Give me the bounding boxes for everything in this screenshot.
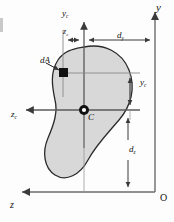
area-element-dA <box>59 68 68 77</box>
label-axis-z: z <box>10 200 14 210</box>
label-axis-y: y <box>156 2 161 13</box>
label-axis-yc: yc <box>62 9 68 18</box>
label-dimension-dz: dz <box>129 145 136 154</box>
figure-canvas: y O z yc zc zc dy yc dz dA C <box>0 0 174 222</box>
label-dimension-zc: zc <box>63 28 68 36</box>
label-centroid: C <box>88 113 94 122</box>
label-dimension-dy: dy <box>117 31 124 40</box>
label-area-element: dA <box>40 56 50 65</box>
label-axis-zc: zc <box>11 110 17 119</box>
diagram-svg <box>0 0 174 222</box>
label-origin: O <box>160 193 167 203</box>
label-dimension-yc: yc <box>140 78 146 87</box>
